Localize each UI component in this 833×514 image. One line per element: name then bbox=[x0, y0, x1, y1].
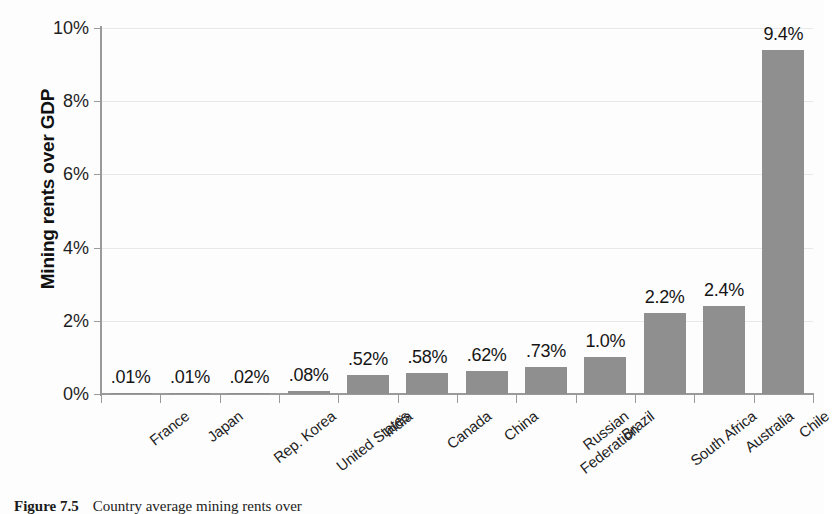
x-axis-category-label: China bbox=[501, 408, 541, 445]
x-axis-tick bbox=[279, 394, 280, 403]
plot-area: 0%2%4%6%8%10%.01%France.01%Japan.02%Rep.… bbox=[101, 28, 813, 394]
category-label-line: Japan bbox=[204, 407, 246, 445]
caption-text: Country average mining rents over bbox=[93, 498, 302, 514]
bar[interactable] bbox=[762, 50, 804, 394]
y-axis-tick bbox=[94, 174, 102, 175]
x-axis-category-label: Canada bbox=[444, 408, 495, 453]
bar[interactable] bbox=[644, 313, 686, 394]
bar-value-label: .58% bbox=[397, 347, 457, 368]
x-axis-tick bbox=[694, 394, 695, 403]
gridline bbox=[101, 101, 813, 102]
x-axis-tick bbox=[635, 394, 636, 403]
bar-value-label: .01% bbox=[160, 367, 220, 388]
bar-value-label: 2.4% bbox=[694, 280, 754, 301]
bar[interactable] bbox=[347, 375, 389, 394]
bar-value-label: .52% bbox=[338, 349, 398, 370]
x-axis-tick bbox=[576, 394, 577, 403]
y-axis-tick bbox=[94, 321, 102, 322]
bar[interactable] bbox=[703, 306, 745, 394]
category-label-line: Rep. Korea bbox=[270, 407, 339, 466]
x-axis-tick bbox=[160, 394, 161, 403]
x-axis-category-label: France bbox=[146, 408, 192, 449]
bar-value-label: 9.4% bbox=[753, 24, 813, 45]
gridline bbox=[101, 28, 813, 29]
x-axis-category-label: Rep. Korea bbox=[271, 408, 340, 467]
category-label-line: France bbox=[146, 407, 192, 448]
x-axis-tick bbox=[516, 394, 517, 403]
bar[interactable] bbox=[288, 391, 330, 394]
bar[interactable] bbox=[525, 367, 567, 394]
x-axis-tick bbox=[398, 394, 399, 403]
y-axis-tick-label: 6% bbox=[63, 164, 89, 185]
figure-caption: Figure 7.5Country average mining rents o… bbox=[14, 498, 814, 514]
bar[interactable] bbox=[406, 373, 448, 394]
y-axis-tick-label: 0% bbox=[63, 384, 89, 405]
y-axis-title: Mining rents over GDP bbox=[37, 9, 59, 369]
y-axis-tick bbox=[94, 248, 102, 249]
category-label-line: Chile bbox=[796, 407, 833, 441]
y-axis-tick bbox=[94, 28, 102, 29]
bar-value-label: 2.2% bbox=[635, 287, 695, 308]
category-label-line: China bbox=[500, 407, 541, 444]
category-label-line: Canada bbox=[444, 407, 495, 452]
bar-value-label: 1.0% bbox=[575, 331, 635, 352]
bar-value-label: .01% bbox=[101, 367, 161, 388]
bar[interactable] bbox=[466, 371, 508, 394]
bar-value-label: .73% bbox=[516, 341, 576, 362]
y-axis-tick-label: 2% bbox=[63, 310, 89, 331]
x-axis-tick bbox=[101, 394, 102, 403]
bar-value-label: .02% bbox=[219, 367, 279, 388]
y-axis-tick-label: 8% bbox=[63, 91, 89, 112]
bar-value-label: .62% bbox=[457, 345, 517, 366]
bar[interactable] bbox=[584, 357, 626, 394]
caption-label: Figure 7.5 bbox=[14, 498, 79, 514]
bar[interactable] bbox=[110, 393, 152, 394]
bar[interactable] bbox=[228, 393, 270, 394]
y-axis-tick bbox=[94, 101, 102, 102]
bar[interactable] bbox=[169, 393, 211, 394]
x-axis-tick bbox=[220, 394, 221, 403]
bar-value-label: .08% bbox=[279, 365, 339, 386]
gridline bbox=[101, 248, 813, 249]
x-axis-category-label: Chile bbox=[796, 408, 832, 442]
x-axis-tick bbox=[754, 394, 755, 403]
gridline bbox=[101, 174, 813, 175]
x-axis-tick bbox=[338, 394, 339, 403]
x-axis-tick bbox=[813, 394, 814, 403]
x-axis-tick bbox=[457, 394, 458, 403]
y-axis-tick-label: 4% bbox=[63, 237, 89, 258]
x-axis-category-label: Japan bbox=[204, 408, 246, 446]
y-axis-tick-label: 10% bbox=[53, 18, 89, 39]
